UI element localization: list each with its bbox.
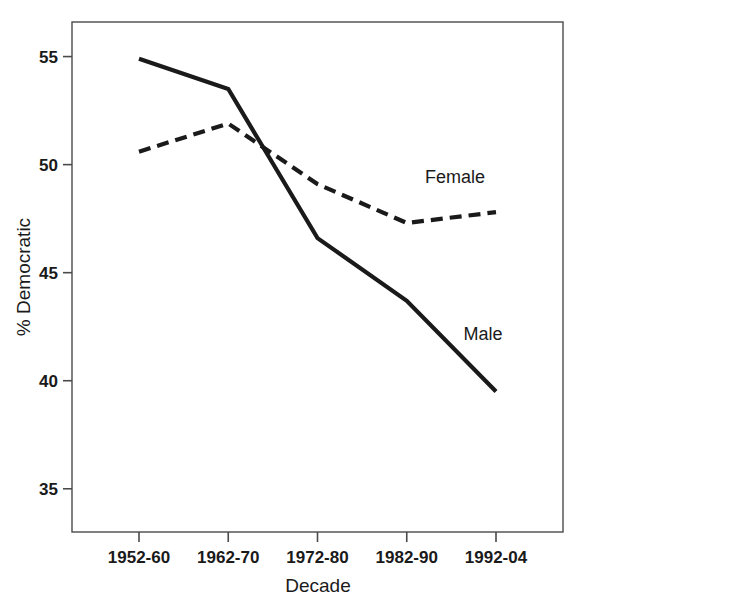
y-tick-label-55: 55	[39, 48, 58, 67]
x-tick-label-1992-04: 1992-04	[465, 548, 528, 567]
x-tick-label-1962-70: 1962-70	[197, 548, 259, 567]
y-axis-tick-labels: 3540455055	[39, 48, 58, 499]
x-axis-ticks	[139, 532, 496, 542]
y-tick-label-45: 45	[39, 264, 58, 283]
chart-container: 3540455055 1952-601962-701972-801982-901…	[0, 0, 738, 605]
data-series-group	[139, 59, 496, 392]
series-label-female: Female	[425, 167, 485, 187]
x-tick-label-1952-60: 1952-60	[108, 548, 170, 567]
line-chart: 3540455055 1952-601962-701972-801982-901…	[0, 0, 738, 605]
plot-area-frame	[72, 22, 563, 532]
x-tick-label-1972-80: 1972-80	[286, 548, 348, 567]
series-label-male: Male	[463, 324, 502, 344]
x-axis-tick-labels: 1952-601962-701972-801982-901992-04	[108, 548, 528, 567]
y-tick-label-50: 50	[39, 156, 58, 175]
series-line-male	[139, 59, 496, 392]
x-tick-label-1982-90: 1982-90	[376, 548, 438, 567]
series-annotations: FemaleMale	[425, 167, 503, 344]
y-tick-label-40: 40	[39, 372, 58, 391]
y-tick-label-35: 35	[39, 480, 58, 499]
x-axis-title: Decade	[285, 575, 351, 596]
y-axis-ticks	[63, 57, 72, 489]
y-axis-title: % Democratic	[13, 218, 34, 336]
